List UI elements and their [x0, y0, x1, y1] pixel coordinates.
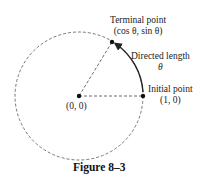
origin-label: (0, 0) [66, 101, 87, 112]
initial-coords: (1, 0) [148, 95, 193, 106]
directed-length-label: Directed length θ [131, 51, 190, 73]
origin-point [77, 94, 81, 98]
directed-title: Directed length [131, 51, 190, 62]
theta-symbol: θ [131, 62, 190, 73]
initial-title: Initial point [148, 84, 193, 95]
terminal-point [110, 40, 114, 44]
terminal-coords: (cos θ, sin θ) [110, 26, 166, 37]
initial-point-label: Initial point (1, 0) [148, 84, 193, 106]
origin-coords: (0, 0) [66, 101, 87, 112]
radius-to-terminal [79, 42, 112, 96]
initial-point [141, 94, 145, 98]
terminal-title: Terminal point [110, 15, 166, 26]
figure-caption: Figure 8–3 [73, 161, 126, 173]
terminal-point-label: Terminal point (cos θ, sin θ) [110, 15, 166, 37]
